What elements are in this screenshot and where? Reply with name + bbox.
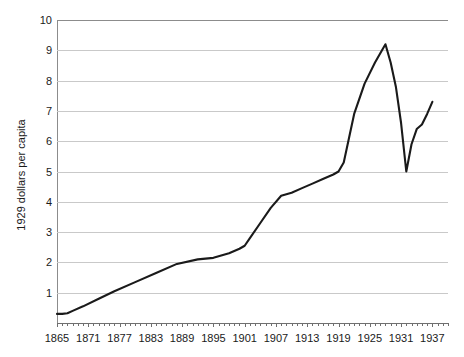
y-axis-tick-label: 8 xyxy=(24,75,52,86)
x-axis-tick-mark xyxy=(135,323,136,326)
x-axis-tick-mark xyxy=(427,323,428,326)
y-axis-tick-label: 10 xyxy=(24,15,52,26)
y-axis-tick-label: 9 xyxy=(24,45,52,56)
x-axis-tick-mark xyxy=(266,323,267,326)
x-axis-tick-mark xyxy=(93,323,94,326)
y-axis-tick-label: 3 xyxy=(24,227,52,238)
x-axis-tick-label: 1937 xyxy=(402,332,462,345)
x-axis-tick-mark xyxy=(239,323,240,326)
x-axis-tick-mark xyxy=(438,323,439,326)
x-axis-tick-mark xyxy=(412,323,413,326)
x-axis-tick-mark xyxy=(276,323,277,327)
x-axis-tick-mark xyxy=(339,323,340,327)
x-axis-tick-mark xyxy=(281,323,282,326)
x-axis-tick-mark xyxy=(193,323,194,326)
x-axis-tick-mark xyxy=(260,323,261,326)
x-axis-tick-mark xyxy=(213,323,214,327)
x-axis-tick-mark xyxy=(182,323,183,327)
x-axis-tick-mark xyxy=(385,323,386,326)
x-axis-tick-mark xyxy=(83,323,84,326)
x-axis-tick-mark xyxy=(349,323,350,326)
x-axis-tick-mark xyxy=(109,323,110,326)
x-axis-tick-mark xyxy=(62,323,63,326)
x-axis-tick-mark xyxy=(422,323,423,326)
x-axis-tick-mark xyxy=(396,323,397,326)
x-axis-tick-mark xyxy=(229,323,230,326)
series-line-1929-dollars-per-capita xyxy=(57,20,448,323)
x-axis-tick-mark xyxy=(359,323,360,326)
x-axis-tick-mark xyxy=(73,323,74,326)
x-axis-tick-mark xyxy=(297,323,298,326)
x-axis-tick-mark xyxy=(88,323,89,327)
x-axis-tick-mark xyxy=(172,323,173,326)
y-axis-tick-label: 6 xyxy=(24,136,52,147)
x-axis-tick-mark xyxy=(245,323,246,327)
x-axis-tick-mark xyxy=(99,323,100,326)
y-axis-tick-label: 1 xyxy=(24,287,52,298)
x-axis-tick-mark xyxy=(318,323,319,326)
x-axis-tick-mark xyxy=(333,323,334,326)
x-axis-tick-mark xyxy=(161,323,162,326)
x-axis-tick-mark xyxy=(312,323,313,326)
x-axis-tick-mark xyxy=(177,323,178,326)
y-axis-tick-label-group: 12345678910 xyxy=(24,0,52,357)
x-axis-tick-mark xyxy=(370,323,371,327)
x-axis-tick-mark xyxy=(120,323,121,327)
x-axis-tick-mark xyxy=(125,323,126,326)
x-axis-tick-mark xyxy=(380,323,381,326)
y-axis-tick-label: 7 xyxy=(24,105,52,116)
x-axis-tick-mark xyxy=(401,323,402,327)
x-axis-tick-mark xyxy=(391,323,392,326)
x-axis-tick-mark xyxy=(140,323,141,326)
x-axis-tick-mark xyxy=(365,323,366,326)
x-axis-tick-mark xyxy=(203,323,204,326)
x-axis-tick-mark xyxy=(198,323,199,326)
x-axis-tick-label-group: 1865187118771883188918951901190719131919… xyxy=(0,332,464,348)
x-axis-tick-mark xyxy=(344,323,345,326)
x-axis-tick-mark xyxy=(448,323,449,326)
x-axis-tick-mark xyxy=(406,323,407,326)
x-axis-tick-mark xyxy=(417,323,418,326)
x-axis-tick-mark xyxy=(286,323,287,326)
x-axis-tick-mark xyxy=(234,323,235,326)
x-axis-tick-mark xyxy=(187,323,188,326)
series-polyline xyxy=(57,44,432,314)
x-axis-tick-mark xyxy=(156,323,157,326)
y-axis-tick-label: 5 xyxy=(24,166,52,177)
x-axis-tick-mark xyxy=(375,323,376,326)
x-axis-tick-mark xyxy=(250,323,251,326)
x-axis-tick-mark xyxy=(146,323,147,326)
line-chart-figure: 1929 dollars per capita 12345678910 1865… xyxy=(0,0,464,357)
x-axis-tick-mark xyxy=(354,323,355,326)
x-axis-tick-mark xyxy=(130,323,131,326)
x-axis-tick-mark xyxy=(114,323,115,326)
plot-area xyxy=(57,20,448,323)
x-axis-tick-mark xyxy=(255,323,256,326)
y-axis-tick-label: 4 xyxy=(24,196,52,207)
x-axis-tick-mark xyxy=(224,323,225,326)
x-axis-tick-mark xyxy=(208,323,209,326)
x-axis-tick-mark xyxy=(323,323,324,326)
x-axis-tick-mark xyxy=(328,323,329,326)
x-axis-tick-mark xyxy=(57,323,58,327)
x-axis-tick-mark xyxy=(151,323,152,327)
x-axis-tick-mark xyxy=(443,323,444,326)
x-axis-tick-mark xyxy=(292,323,293,326)
x-axis-tick-mark xyxy=(307,323,308,327)
x-axis-tick-mark xyxy=(219,323,220,326)
x-axis-tick-mark xyxy=(78,323,79,326)
x-axis-tick-mark xyxy=(166,323,167,326)
x-axis-tick-mark xyxy=(67,323,68,326)
x-axis-tick-mark xyxy=(104,323,105,326)
x-axis-tick-mark xyxy=(271,323,272,326)
y-axis-tick-label: 2 xyxy=(24,257,52,268)
x-axis-tick-mark xyxy=(432,323,433,327)
x-axis-tick-mark xyxy=(302,323,303,326)
x-axis-tick-mark-group xyxy=(57,323,448,327)
